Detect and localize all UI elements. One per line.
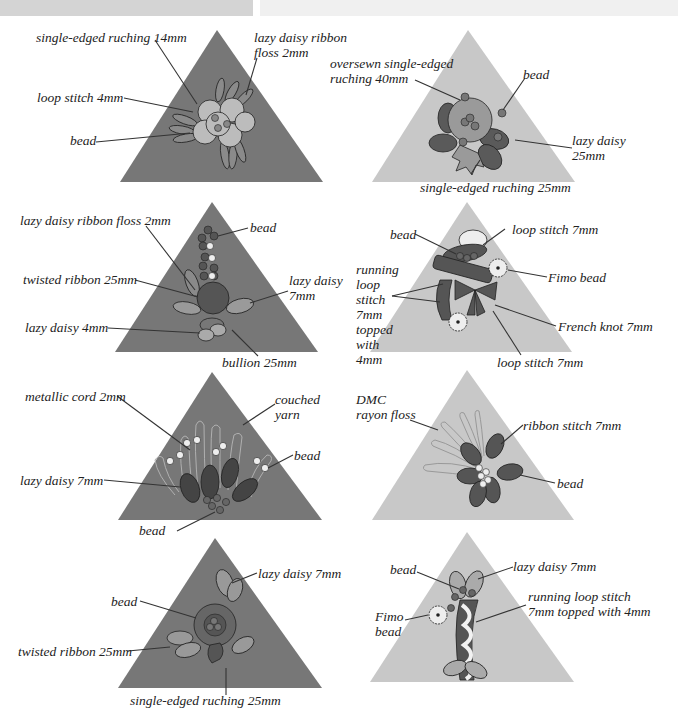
label-bead: bead [557, 476, 583, 491]
label-single-edged-ruching-25mm: single-edged ruching 25mm [420, 180, 571, 195]
label-bead: bead [390, 227, 416, 242]
label-running-loop-stitch-7mm-topped-with-4mm: running loop stitch 7mm topped with 4mm [528, 589, 651, 619]
label-lazy-daisy-7mm: lazy daisy 7mm [258, 566, 341, 581]
label-french-knot-7mm: French knot 7mm [558, 319, 653, 334]
label-loop-stitch-7mm: loop stitch 7mm [512, 222, 598, 237]
label-single-edged-ruching-25mm: single-edged ruching 25mm [130, 693, 281, 708]
label-lazy-daisy-7mm: lazy daisy 7mm [20, 473, 103, 488]
fimo-bead-icon [429, 606, 447, 624]
label-bead: bead [390, 562, 416, 577]
label-running-loop-stitch-7mm-topped-with-4mm: running loop stitch 7mm topped with 4mm [356, 262, 399, 367]
label-metallic-cord-2mm: metallic cord 2mm [25, 389, 126, 404]
label-twisted-ribbon-25mm: twisted ribbon 25mm [23, 272, 137, 287]
label-lazy-daisy-25mm: lazy daisy 25mm [572, 133, 626, 163]
label-ribbon-stitch-7mm: ribbon stitch 7mm [523, 418, 621, 433]
label-lazy-daisy-7mm: lazy daisy 7mm [289, 273, 343, 303]
label-lazy-daisy-ribbon-floss-2mm: lazy daisy ribbon floss 2mm [20, 213, 171, 228]
label-dmc-rayon-floss: DMC rayon floss [356, 392, 416, 422]
label-single-edged-ruching-14mm: single-edged ruching 14mm [36, 30, 187, 45]
fimo-bead-icon [489, 259, 507, 277]
label-lazy-daisy-7mm: lazy daisy 7mm [513, 559, 596, 574]
label-bead: bead [294, 448, 320, 463]
label-oversewn-single-edged-ruching-40mm: oversewn single-edged ruching 40mm [330, 56, 453, 86]
label-bead: bead [139, 523, 165, 538]
label-loop-stitch-4mm: loop stitch 4mm [37, 90, 123, 105]
label-twisted-ribbon-25mm: twisted ribbon 25mm [18, 644, 132, 659]
label-fimo-bead: Fimo bead [375, 609, 404, 639]
label-bead: bead [70, 133, 96, 148]
label-lazy-daisy-4mm: lazy daisy 4mm [25, 320, 108, 335]
label-bead: bead [250, 220, 276, 235]
fimo-bead-icon [449, 313, 467, 331]
label-loop-stitch-7mm: loop stitch 7mm [497, 355, 583, 370]
label-couched-yarn: couched yarn [275, 392, 320, 422]
label-bead: bead [111, 594, 137, 609]
label-bead: bead [523, 67, 549, 82]
label-bullion-25mm: bullion 25mm [222, 355, 297, 370]
label-fimo-bead: Fimo bead [548, 270, 606, 285]
